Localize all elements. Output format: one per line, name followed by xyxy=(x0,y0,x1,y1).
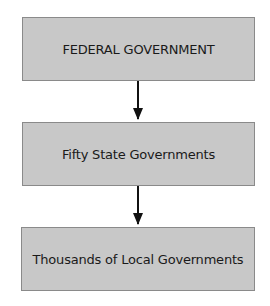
federal-government-box: FEDERAL GOVERNMENT xyxy=(22,17,255,81)
arrow-down-icon xyxy=(137,81,139,119)
arrow-down-icon xyxy=(137,186,139,224)
state-governments-box: Fifty State Governments xyxy=(22,122,255,186)
state-governments-label: Fifty State Governments xyxy=(62,147,215,162)
federal-government-label: FEDERAL GOVERNMENT xyxy=(62,42,214,57)
local-governments-box: Thousands of Local Governments xyxy=(21,227,255,291)
local-governments-label: Thousands of Local Governments xyxy=(33,252,244,267)
